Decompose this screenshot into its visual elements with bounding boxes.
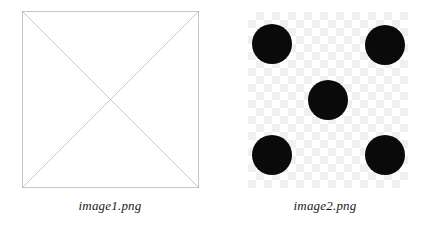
dot-top-left (252, 24, 292, 64)
placeholder-cross-icon (22, 11, 199, 188)
dice-five-dots-group (248, 12, 408, 188)
dot-bottom-right (365, 135, 405, 175)
figure-row: image1.png image2.png (0, 0, 430, 230)
dot-top-right (365, 25, 405, 65)
image1-placeholder-box (22, 11, 199, 188)
dot-bottom-left (252, 135, 292, 175)
image2-caption: image2.png (220, 198, 430, 214)
image2-transparency-checkerboard (248, 12, 408, 188)
figure-image2[interactable] (248, 12, 408, 188)
image1-caption: image1.png (0, 198, 220, 214)
figure-image1[interactable] (22, 11, 199, 188)
dot-center (308, 80, 348, 120)
